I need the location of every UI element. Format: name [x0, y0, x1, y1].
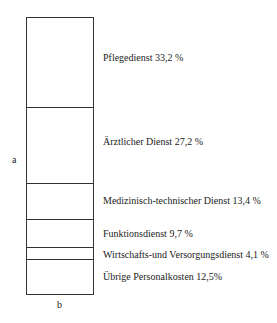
- divider: [27, 259, 93, 260]
- stacked-bar: [26, 17, 94, 295]
- divider: [27, 107, 93, 108]
- axis-label-a: a: [12, 154, 16, 165]
- segment-label-aerztlicher-dienst: Ärztlicher Dienst 27,2 %: [103, 136, 203, 148]
- segment-label-funktionsdienst: Funktionsdienst 9,7 %: [103, 228, 193, 240]
- divider: [27, 219, 93, 220]
- segment-label-wirtschaftsdienst: Wirtschafts-und Versorgungsdienst 4,1 %: [103, 249, 269, 261]
- segment-label-med-tech-dienst: Medizinisch-technischer Dienst 13,4 %: [103, 195, 261, 207]
- divider: [27, 183, 93, 184]
- divider: [27, 247, 93, 248]
- segment-label-uebrige: Übrige Personalkosten 12,5%: [103, 271, 222, 283]
- segment-label-pflegedienst: Pflegedienst 33,2 %: [103, 52, 183, 64]
- axis-label-b: b: [57, 299, 62, 310]
